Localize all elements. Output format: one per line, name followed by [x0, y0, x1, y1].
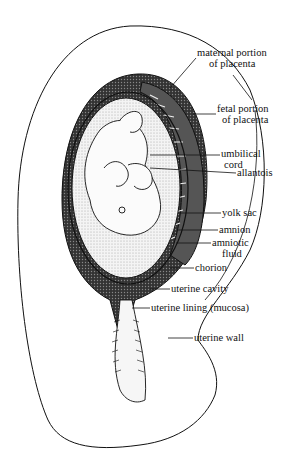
label-uterine-cavity: uterine cavity — [171, 283, 228, 294]
label-text: maternal portion — [197, 47, 267, 58]
label-text: uterine lining (mucosa) — [151, 302, 249, 313]
label-text: umbilical — [221, 148, 261, 159]
label-amniotic-fluid: amniotic fluid — [212, 237, 249, 259]
label-text: of placenta — [197, 58, 267, 69]
label-text: fetal portion — [217, 103, 269, 114]
label-amnion: amnion — [219, 224, 251, 235]
label-yolk-sac: yolk sac — [222, 207, 257, 218]
label-text: amniotic — [212, 237, 249, 248]
label-chorion: chorion — [195, 262, 227, 273]
label-uterine-wall: uterine wall — [194, 332, 244, 343]
label-maternal-placenta: maternal portion of placenta — [197, 47, 267, 69]
label-text: uterine cavity — [171, 283, 228, 294]
label-text: uterine wall — [194, 332, 244, 343]
label-allantois: allantois — [237, 167, 273, 178]
label-uterine-lining: uterine lining (mucosa) — [151, 302, 249, 313]
label-text: of placenta — [217, 114, 269, 125]
label-text: fluid — [212, 248, 249, 259]
label-text: allantois — [237, 167, 273, 178]
label-text: amnion — [219, 224, 251, 235]
label-fetal-placenta: fetal portion of placenta — [217, 103, 269, 125]
label-text: chorion — [195, 262, 227, 273]
label-text: yolk sac — [222, 207, 257, 218]
